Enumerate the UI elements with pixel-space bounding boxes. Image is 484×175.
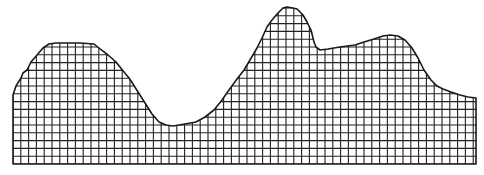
hatch-grid: [0, 0, 484, 175]
terrain-profile-figure: [0, 0, 484, 175]
